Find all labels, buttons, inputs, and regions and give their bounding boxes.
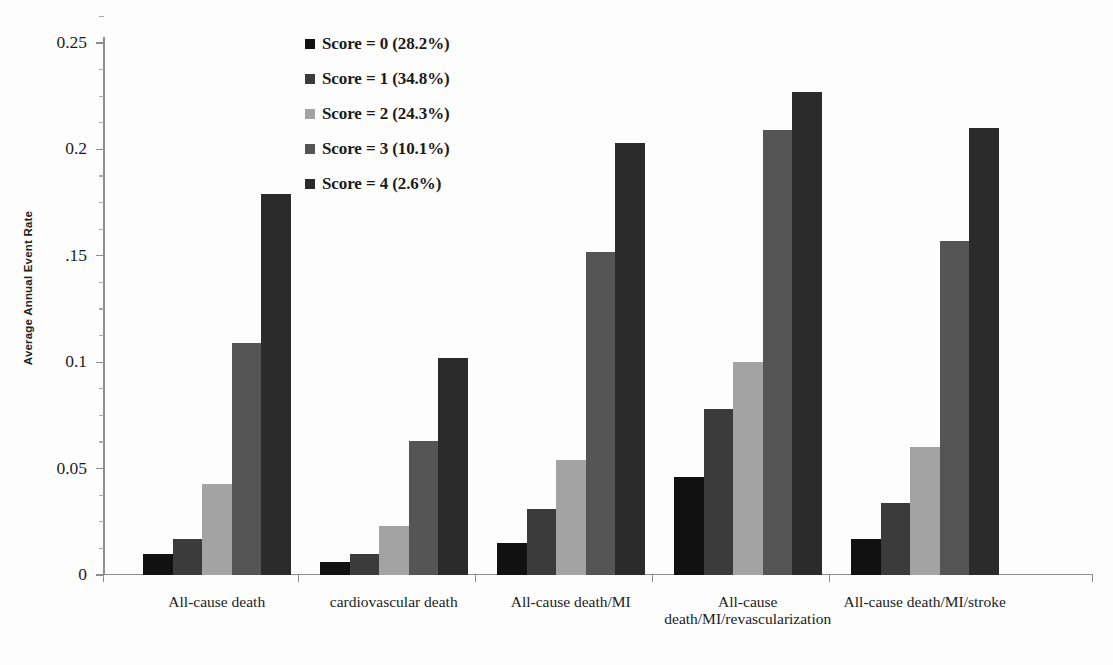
bar-group [674,43,822,575]
y-minor-tick-14 [99,521,104,522]
y-minor-tick-10 [99,388,104,389]
x-axis-category-label: All-cause death/MI/stroke [775,593,1075,610]
bar[interactable] [969,128,999,575]
x-tick-1 [298,574,299,582]
legend-item[interactable]: Score = 1 (34.8%) [305,61,450,96]
bar[interactable] [674,477,704,575]
y-minor-tick-11 [99,415,104,416]
bar-group [497,43,645,575]
legend-swatch-icon [305,74,315,84]
y-minor-tick-9 [99,335,104,336]
bar[interactable] [586,252,616,575]
bar[interactable] [704,409,734,575]
bar[interactable] [497,543,527,575]
legend-label: Score = 4 (2.6%) [322,174,441,194]
y-minor-tick-8 [99,308,104,309]
y-tick-label: 0 [78,564,87,585]
legend-label: Score = 0 (28.2%) [322,34,450,54]
y-minor-tick-12 [99,441,104,442]
y-minor-tick-6 [99,229,104,230]
y-minor-tick-15 [99,548,104,549]
legend-swatch-icon [305,39,315,49]
y-tick-0: 0.25 [96,42,104,43]
chart-legend: Score = 0 (28.2%)Score = 1 (34.8%)Score … [305,26,450,201]
y-tick-3: 0.1 [96,362,104,363]
bar[interactable] [350,554,380,575]
bar[interactable] [320,562,350,575]
legend-label: Score = 1 (34.8%) [322,69,450,89]
bar[interactable] [143,554,173,575]
x-tick-0 [103,574,104,582]
y-minor-tick-0 [99,16,104,17]
bar[interactable] [438,358,468,575]
y-minor-tick-3 [99,122,104,123]
legend-item[interactable]: Score = 4 (2.6%) [305,166,450,201]
bar[interactable] [763,130,793,575]
plot-area: 0.250.2.150.10.050 [103,43,1093,575]
y-axis-title-text: Average Annual Event Rate [22,210,34,364]
y-tick-label: 0.1 [65,351,87,372]
legend-label: Score = 2 (24.3%) [322,104,450,124]
category-label-line: All-cause death/MI/stroke [775,593,1075,610]
legend-label: Score = 3 (10.1%) [322,139,450,159]
y-tick-label: 0.2 [65,138,87,159]
y-minor-tick-4 [99,175,104,176]
y-tick-label: .15 [65,245,87,266]
legend-item[interactable]: Score = 2 (24.3%) [305,96,450,131]
bar[interactable] [173,539,203,575]
bar[interactable] [527,509,557,575]
bar[interactable] [202,484,232,576]
legend-swatch-icon [305,109,315,119]
legend-item[interactable]: Score = 3 (10.1%) [305,131,450,166]
bar[interactable] [792,92,822,575]
bar[interactable] [615,143,645,575]
bar[interactable] [940,241,970,575]
bar[interactable] [851,539,881,575]
y-tick-1: 0.2 [96,149,104,150]
bar[interactable] [910,447,940,575]
y-axis-title: Average Annual Event Rate [18,0,38,575]
bar-group [851,43,999,575]
bar[interactable] [261,194,291,575]
bar[interactable] [379,526,409,575]
x-tick-3 [652,574,653,582]
bar[interactable] [881,503,911,575]
y-minor-tick-7 [99,282,104,283]
y-minor-tick-2 [99,96,104,97]
bar[interactable] [733,362,763,575]
y-tick-4: 0.05 [96,468,104,469]
bar-chart-figure: Average Annual Event Rate 0.250.2.150.10… [0,0,1113,665]
legend-item[interactable]: Score = 0 (28.2%) [305,26,450,61]
legend-swatch-icon [305,144,315,154]
y-tick-label: 0.25 [56,32,87,53]
x-tick-5 [1092,574,1093,582]
x-tick-2 [475,574,476,582]
x-tick-4 [829,574,830,582]
bar[interactable] [556,460,586,575]
bar[interactable] [409,441,439,575]
y-minor-tick-13 [99,495,104,496]
bar-group [143,43,291,575]
legend-swatch-icon [305,179,315,189]
y-tick-label: 0.05 [56,458,87,479]
bar[interactable] [232,343,262,575]
y-minor-tick-1 [99,69,104,70]
y-tick-2: .15 [96,255,104,256]
y-minor-tick-5 [99,202,104,203]
category-label-line: death/MI/revascularization [598,610,898,627]
